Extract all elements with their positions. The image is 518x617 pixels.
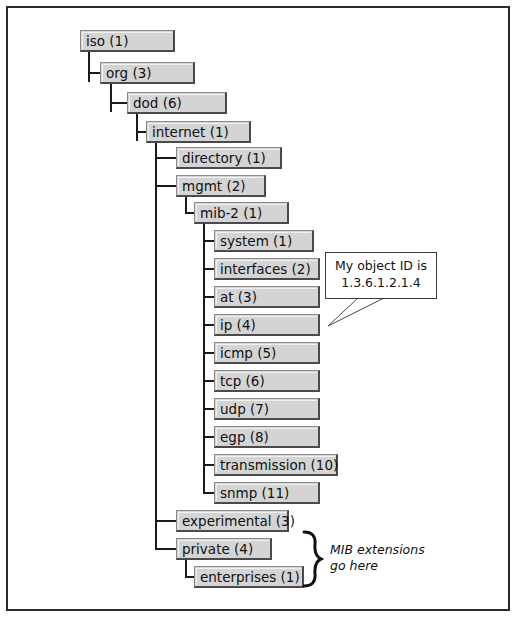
tree-node-system-1[interactable]: system (1): [214, 230, 314, 252]
tree-node-directory-1[interactable]: directory (1): [176, 147, 282, 169]
tree-node-mgmt-2[interactable]: mgmt (2): [176, 175, 266, 197]
tree-node-label: internet (1): [152, 124, 229, 140]
dod-trunk: [136, 114, 138, 141]
tree-node-internet-1[interactable]: internet (1): [146, 121, 251, 143]
tree-node-label: org (3): [106, 65, 152, 81]
brace-note-line-2: go here: [330, 558, 425, 574]
curly-brace-icon: [300, 530, 324, 588]
callout-line-1: My object ID is: [326, 257, 436, 274]
tree-node-label: icmp (5): [220, 345, 276, 361]
tree-node-snmp-11[interactable]: snmp (11): [214, 482, 320, 504]
tree-node-egp-8[interactable]: egp (8): [214, 426, 320, 448]
to-snmp: [203, 492, 214, 494]
to-org: [88, 72, 100, 74]
tree-node-enterprises-1[interactable]: enterprises (1): [194, 566, 304, 588]
tree-node-label: tcp (6): [220, 373, 265, 389]
tree-node-experimental-3[interactable]: experimental (3): [176, 510, 289, 532]
tree-node-private-4[interactable]: private (4): [176, 538, 272, 560]
tree-node-icmp-5[interactable]: icmp (5): [214, 342, 320, 364]
to-interfaces: [203, 268, 214, 270]
tree-node-dod-6[interactable]: dod (6): [127, 92, 227, 114]
tree-node-label: system (1): [220, 233, 292, 249]
tree-node-org-3[interactable]: org (3): [100, 62, 195, 84]
tree-node-udp-7[interactable]: udp (7): [214, 398, 320, 420]
to-private: [155, 548, 176, 550]
tree-node-ip-4[interactable]: ip (4): [214, 314, 320, 336]
to-mib2: [185, 212, 194, 214]
brace-note-text: MIB extensions go here: [330, 542, 425, 574]
tree-node-tcp-6[interactable]: tcp (6): [214, 370, 320, 392]
tree-node-iso-1[interactable]: iso (1): [80, 30, 175, 52]
tree-node-label: mgmt (2): [182, 178, 246, 194]
to-mgmt: [155, 185, 176, 187]
to-egp: [203, 436, 214, 438]
brace-note-line-1: MIB extensions: [330, 542, 425, 558]
tree-node-label: egp (8): [220, 429, 269, 445]
to-icmp: [203, 352, 214, 354]
diagram-canvas: iso (1)org (3)dod (6)internet (1)directo…: [0, 0, 518, 617]
iso-trunk: [88, 52, 90, 82]
tree-node-label: ip (4): [220, 317, 256, 333]
to-directory: [155, 157, 176, 159]
tree-node-mib-2-1[interactable]: mib-2 (1): [194, 202, 289, 224]
to-at: [203, 296, 214, 298]
mib2-trunk: [203, 224, 205, 493]
internet-trunk: [155, 143, 157, 550]
tree-node-label: directory (1): [182, 150, 266, 166]
to-dod: [110, 102, 127, 104]
to-ip: [203, 324, 214, 326]
brace-annotation: [300, 530, 324, 592]
tree-node-label: iso (1): [86, 33, 128, 49]
tree-node-label: snmp (11): [220, 485, 289, 501]
to-enterprises: [185, 576, 194, 578]
to-udp: [203, 408, 214, 410]
to-tcp: [203, 380, 214, 382]
callout-line-2: 1.3.6.1.2.1.4: [326, 274, 436, 291]
tree-node-label: interfaces (2): [220, 261, 311, 277]
org-trunk: [110, 84, 112, 112]
to-system: [203, 240, 214, 242]
tree-node-label: mib-2 (1): [200, 205, 262, 221]
to-transmission: [203, 464, 214, 466]
to-internet: [136, 131, 146, 133]
tree-node-label: experimental (3): [182, 513, 295, 529]
tree-node-label: dod (6): [133, 95, 182, 111]
tree-node-label: private (4): [182, 541, 253, 557]
tree-node-label: at (3): [220, 289, 257, 305]
tree-node-transmission-10[interactable]: transmission (10): [214, 454, 338, 476]
to-experimental: [155, 520, 176, 522]
callout-balloon: My object ID is 1.3.6.1.2.1.4: [325, 252, 437, 299]
tree-node-at-3[interactable]: at (3): [214, 286, 320, 308]
tree-node-interfaces-2[interactable]: interfaces (2): [214, 258, 320, 280]
tree-node-label: transmission (10): [220, 457, 338, 473]
tree-node-label: udp (7): [220, 401, 269, 417]
tree-node-label: enterprises (1): [200, 569, 300, 585]
